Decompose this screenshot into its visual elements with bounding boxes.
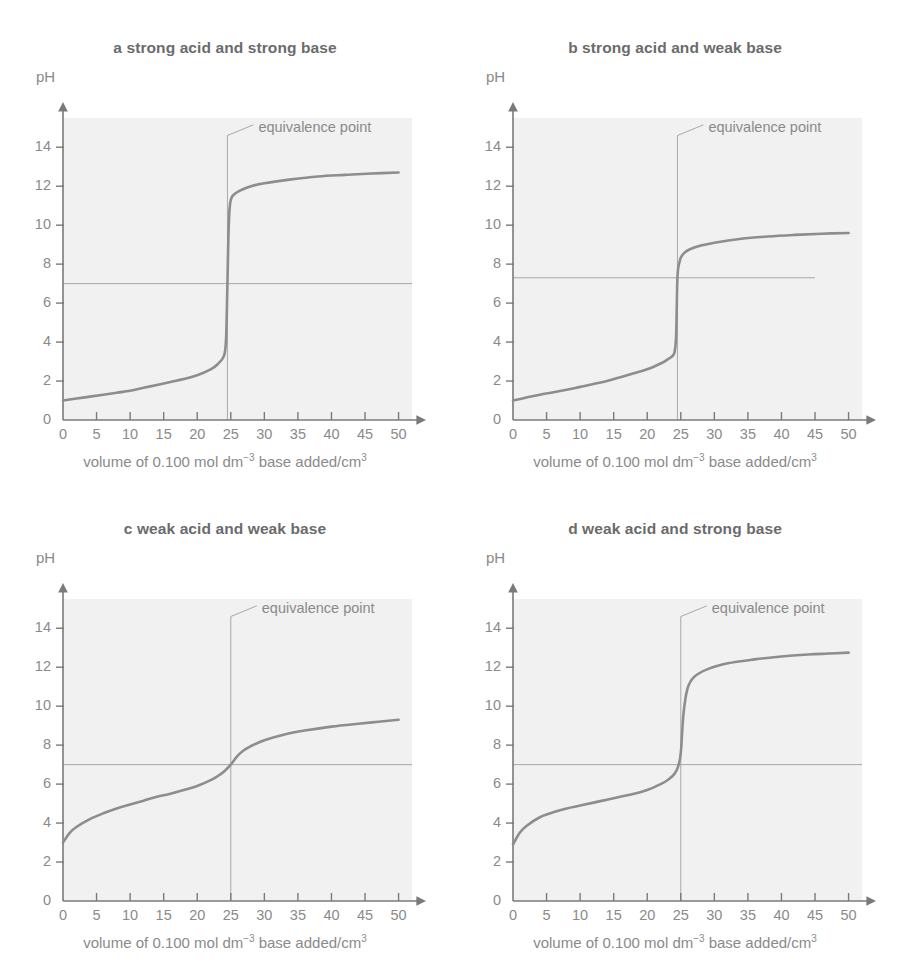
titration-curves-figure: a strong acid and strong base pH equival… bbox=[0, 0, 900, 962]
panel-d-x-axis-label: volume of 0.100 mol dm−3base added/cm3 bbox=[450, 933, 900, 951]
x-axis-label-sup-volume: 3 bbox=[361, 452, 367, 463]
x-axis-tick-label: 10 bbox=[568, 426, 592, 442]
x-axis-tick-label: 15 bbox=[602, 426, 626, 442]
y-axis-tick-label: 10 bbox=[475, 697, 501, 713]
y-axis-tick-label: 14 bbox=[475, 619, 501, 635]
x-axis-tick-label: 50 bbox=[837, 907, 861, 923]
x-axis-tick-label: 40 bbox=[319, 426, 343, 442]
panel-a-title: a strong acid and strong base bbox=[0, 39, 450, 57]
y-axis-tick-label: 2 bbox=[25, 853, 51, 869]
y-axis-tick-label: 4 bbox=[475, 333, 501, 349]
x-axis-tick-label: 45 bbox=[353, 426, 377, 442]
panel-a-x-axis-label: volume of 0.100 mol dm−3base added/cm3 bbox=[0, 452, 450, 470]
x-axis-tick-label: 35 bbox=[736, 907, 760, 923]
x-axis-label-sup-molarity: −3 bbox=[243, 452, 254, 463]
y-axis-tick-label: 10 bbox=[475, 216, 501, 232]
x-axis-tick-label: 20 bbox=[185, 426, 209, 442]
x-axis-label-mid: base added/cm bbox=[709, 934, 812, 951]
x-axis-label-sup-molarity: −3 bbox=[243, 933, 254, 944]
x-axis-tick-label: 20 bbox=[185, 907, 209, 923]
x-axis-tick-label: 50 bbox=[837, 426, 861, 442]
equivalence-point-leader-line bbox=[227, 125, 253, 136]
y-axis-tick-label: 8 bbox=[475, 736, 501, 752]
y-axis-tick-label: 0 bbox=[475, 892, 501, 908]
x-axis-tick-label: 35 bbox=[286, 426, 310, 442]
equivalence-point-annotation: equivalence point bbox=[712, 600, 825, 616]
x-axis-tick-label: 25 bbox=[669, 907, 693, 923]
titration-curve bbox=[63, 173, 399, 401]
x-axis-tick-label: 20 bbox=[635, 907, 659, 923]
y-axis-tick-label: 10 bbox=[25, 697, 51, 713]
panel-c-x-axis-label: volume of 0.100 mol dm−3base added/cm3 bbox=[0, 933, 450, 951]
y-axis-tick-label: 14 bbox=[25, 138, 51, 154]
y-axis-tick-label: 14 bbox=[475, 138, 501, 154]
y-axis-tick-label: 14 bbox=[25, 619, 51, 635]
x-axis-tick-label: 5 bbox=[85, 426, 109, 442]
panel-a: a strong acid and strong base pH equival… bbox=[0, 0, 450, 481]
panel-c-title: c weak acid and weak base bbox=[0, 520, 450, 538]
x-axis-label-pre: volume of 0.100 mol dm bbox=[83, 934, 243, 951]
x-axis-tick-label: 5 bbox=[535, 907, 559, 923]
y-axis-tick-label: 2 bbox=[475, 853, 501, 869]
x-axis-tick-label: 30 bbox=[252, 907, 276, 923]
panel-d: d weak acid and strong base pH equivalen… bbox=[450, 481, 900, 962]
x-axis-label-mid: base added/cm bbox=[259, 453, 362, 470]
panel-c-plot: equivalence point bbox=[55, 591, 420, 901]
y-axis-tick-label: 2 bbox=[25, 372, 51, 388]
panel-c-chart-svg: equivalence point bbox=[55, 591, 420, 921]
titration-curve bbox=[513, 233, 849, 401]
x-axis-tick-label: 45 bbox=[803, 426, 827, 442]
panel-b-title: b strong acid and weak base bbox=[450, 39, 900, 57]
x-axis-tick-label: 25 bbox=[669, 426, 693, 442]
panel-b-y-axis-label: pH bbox=[486, 68, 505, 85]
x-axis-tick-label: 0 bbox=[501, 426, 525, 442]
y-axis-tick-label: 6 bbox=[25, 775, 51, 791]
y-axis-tick-label: 6 bbox=[25, 294, 51, 310]
x-axis-tick-label: 45 bbox=[803, 907, 827, 923]
x-axis-label-pre: volume of 0.100 mol dm bbox=[533, 934, 693, 951]
y-axis-tick-label: 6 bbox=[475, 775, 501, 791]
x-axis-tick-label: 50 bbox=[387, 907, 411, 923]
y-axis-tick-label: 8 bbox=[25, 736, 51, 752]
panel-d-title: d weak acid and strong base bbox=[450, 520, 900, 538]
y-axis-tick-label: 8 bbox=[475, 255, 501, 271]
equivalence-point-leader-line bbox=[677, 125, 703, 136]
panel-c: c weak acid and weak base pH equivalence… bbox=[0, 481, 450, 962]
x-axis-tick-label: 25 bbox=[219, 907, 243, 923]
panel-b-x-axis-label: volume of 0.100 mol dm−3base added/cm3 bbox=[450, 452, 900, 470]
panel-d-plot: equivalence point bbox=[505, 591, 870, 901]
panel-b-plot: equivalence point bbox=[505, 110, 870, 420]
equivalence-point-annotation: equivalence point bbox=[708, 119, 821, 135]
x-axis-tick-label: 40 bbox=[769, 907, 793, 923]
y-axis-tick-label: 12 bbox=[475, 177, 501, 193]
x-axis-label-sup-volume: 3 bbox=[361, 933, 367, 944]
x-axis-label-sup-molarity: −3 bbox=[693, 933, 704, 944]
equivalence-point-leader-line bbox=[231, 606, 257, 617]
panel-a-plot: equivalence point bbox=[55, 110, 420, 420]
x-axis-label-mid: base added/cm bbox=[709, 453, 812, 470]
x-axis-tick-label: 5 bbox=[85, 907, 109, 923]
equivalence-point-annotation: equivalence point bbox=[258, 119, 371, 135]
x-axis-label-mid: base added/cm bbox=[259, 934, 362, 951]
y-axis-tick-label: 8 bbox=[25, 255, 51, 271]
x-axis-label-sup-molarity: −3 bbox=[693, 452, 704, 463]
y-axis-tick-label: 2 bbox=[475, 372, 501, 388]
x-axis-tick-label: 10 bbox=[118, 907, 142, 923]
x-axis-tick-label: 20 bbox=[635, 426, 659, 442]
panel-d-y-axis-label: pH bbox=[486, 549, 505, 566]
x-axis-tick-label: 35 bbox=[736, 426, 760, 442]
y-axis-tick-label: 12 bbox=[25, 658, 51, 674]
panel-b: b strong acid and weak base pH equivalen… bbox=[450, 0, 900, 481]
x-axis-tick-label: 0 bbox=[51, 426, 75, 442]
y-axis-tick-label: 0 bbox=[475, 411, 501, 427]
equivalence-point-annotation: equivalence point bbox=[262, 600, 375, 616]
panel-a-y-axis-label: pH bbox=[36, 68, 55, 85]
x-axis-label-pre: volume of 0.100 mol dm bbox=[533, 453, 693, 470]
y-axis-tick-label: 6 bbox=[475, 294, 501, 310]
x-axis-tick-label: 50 bbox=[387, 426, 411, 442]
x-axis-tick-label: 30 bbox=[702, 907, 726, 923]
x-axis-tick-label: 0 bbox=[501, 907, 525, 923]
x-axis-tick-label: 10 bbox=[568, 907, 592, 923]
x-axis-tick-label: 45 bbox=[353, 907, 377, 923]
y-axis-tick-label: 4 bbox=[25, 814, 51, 830]
